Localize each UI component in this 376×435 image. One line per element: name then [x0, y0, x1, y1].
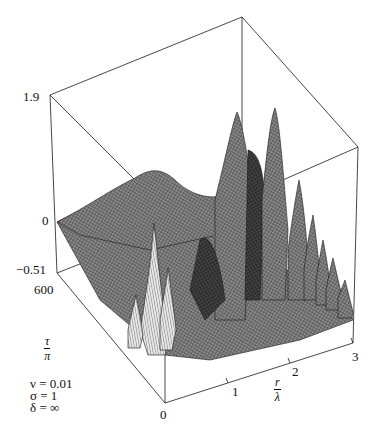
tau-axis-numerator: τ	[44, 335, 50, 349]
r-tick-2: 2	[292, 365, 299, 378]
z-tick-max: 1.9	[23, 90, 39, 103]
r-axis-label: r λ	[274, 376, 281, 403]
surface-plot	[0, 0, 376, 435]
parameter-list: ν = 0.01 σ = 1 δ = ∞	[30, 378, 72, 414]
z-tick-zero: 0	[42, 214, 49, 227]
r-tick-3: 3	[352, 350, 359, 363]
z-tick-min: −0.51	[16, 263, 46, 276]
r-axis-denominator: λ	[275, 390, 280, 403]
tau-tick-zero: 0	[160, 408, 167, 421]
r-axis-numerator: r	[274, 376, 281, 390]
tau-axis-label: τ π	[44, 335, 50, 362]
param-delta: δ = ∞	[30, 402, 72, 414]
r-tick-1: 1	[232, 385, 239, 398]
tau-tick-max: 600	[34, 283, 54, 296]
tau-axis-denominator: π	[44, 349, 50, 362]
